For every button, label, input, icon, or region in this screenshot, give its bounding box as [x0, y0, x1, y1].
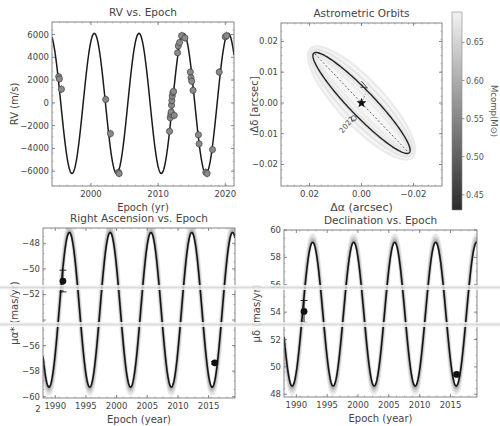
- colorbar-tick-label: 0.55: [466, 115, 484, 124]
- x-tick-label: −0.02: [400, 189, 426, 199]
- rv-data-point: [58, 86, 64, 92]
- rv-data-point: [187, 69, 193, 75]
- x-tick-label: 2020: [214, 189, 236, 199]
- plot-area: [284, 236, 477, 392]
- x-axis-label: Epoch (year): [349, 413, 413, 424]
- y-tick-label: 58: [270, 252, 281, 262]
- y-tick-label: 4000: [27, 52, 49, 62]
- colorbar: 0.450.500.550.600.65Mcomp(M⊙): [452, 12, 499, 210]
- chart-title: RV vs. Epoch: [109, 6, 177, 18]
- y-tick-label: 52: [270, 335, 281, 345]
- rv-model-curve: [52, 33, 234, 173]
- y-tick-label: −56: [22, 341, 40, 351]
- rv-data-point: [174, 50, 180, 56]
- plot-area: 2022: [308, 46, 415, 159]
- x-tick-label: 2000: [80, 189, 102, 199]
- y-tick-label: −4000: [20, 143, 49, 153]
- x-tick-label: 2000: [106, 401, 128, 411]
- x-tick-label: 0.02: [300, 189, 319, 199]
- y-tick-label: 0.01: [259, 67, 278, 77]
- plot-area: [52, 32, 234, 178]
- x-tick-label: 2000: [347, 400, 369, 410]
- stray-tick-label: 2: [35, 404, 40, 414]
- y-tick-label: 0.00: [259, 98, 278, 108]
- rv-data-point: [107, 131, 113, 137]
- figure-canvas: RV vs. EpochEpoch (yr)RV (m/s)2000201020…: [0, 0, 500, 426]
- plot-area: [43, 227, 235, 393]
- rv-data-point: [177, 39, 183, 45]
- rv-data-point: [204, 170, 210, 176]
- rv-data-point: [170, 88, 176, 94]
- colorbar-gradient: [452, 12, 462, 210]
- plot-astrometric: 2022Astrometric OrbitsΔα (arcsec)Δδ [arc…: [249, 7, 442, 214]
- y-axis-label: μα* (mas/yr): [9, 281, 20, 345]
- x-axis-label: Δα (arcsec): [330, 201, 392, 214]
- y-tick-label: −58: [22, 366, 40, 376]
- rv-data-point: [224, 33, 230, 39]
- rv-data-point: [166, 128, 172, 134]
- rv-data-point: [171, 112, 177, 118]
- x-tick-label: 2010: [409, 400, 431, 410]
- y-tick-label: −2000: [20, 121, 49, 131]
- plot-rv: RV vs. EpochEpoch (yr)RV (m/s)2000201020…: [9, 6, 236, 213]
- x-tick-label: 1995: [75, 401, 97, 411]
- y-tick-label: −6000: [20, 166, 49, 176]
- chart-title: Astrometric Orbits: [313, 7, 409, 19]
- x-tick-label: 2005: [136, 401, 158, 411]
- rv-data-point: [56, 76, 62, 82]
- plot-dec: Declination vs. EpochEpoch (year)μδ (mas…: [251, 214, 477, 424]
- rv-data-point: [103, 96, 109, 102]
- rv-data-point: [182, 35, 188, 41]
- data-point-gaia: [453, 371, 460, 378]
- y-tick-label: −52: [22, 289, 40, 299]
- rv-data-point: [209, 146, 215, 152]
- colorbar-label: Mcomp(M⊙): [489, 85, 499, 137]
- data-point-hipparcos: [60, 278, 67, 285]
- y-tick-label: −0.01: [252, 129, 278, 139]
- rv-data-point: [189, 78, 195, 84]
- x-tick-label: 2005: [378, 400, 400, 410]
- data-point-gaia: [211, 359, 218, 366]
- x-tick-label: 2015: [440, 400, 462, 410]
- y-axis-label: RV (m/s): [9, 83, 20, 126]
- y-tick-label: 48: [270, 389, 281, 399]
- y-tick-label: 54: [270, 307, 281, 317]
- rv-data-point: [190, 87, 196, 93]
- y-tick-label: 2000: [27, 75, 49, 85]
- y-tick-label: 60: [270, 225, 281, 235]
- rv-data-point: [196, 141, 202, 147]
- y-axis-label: μδ (mas/yr): [251, 284, 262, 342]
- colorbar-tick-label: 0.45: [466, 191, 484, 200]
- x-axis-label: Epoch (year): [107, 414, 171, 425]
- x-tick-label: 2010: [167, 401, 189, 411]
- chart-title: Declination vs. Epoch: [324, 214, 437, 226]
- chart-title: Right Ascension vs. Epoch: [70, 212, 208, 224]
- y-tick-label: −0.02: [252, 159, 278, 169]
- rv-data-point: [195, 132, 201, 138]
- colorbar-tick-label: 0.60: [466, 77, 484, 86]
- x-tick-label: 1990: [44, 401, 66, 411]
- scan-artifact-band: [0, 285, 500, 290]
- colorbar-tick-label: 0.50: [466, 153, 484, 162]
- rv-data-point: [116, 170, 122, 176]
- y-tick-label: −60: [22, 392, 40, 402]
- data-point-hipparcos: [301, 308, 308, 315]
- x-tick-label: 2015: [198, 401, 220, 411]
- y-tick-label: −50: [22, 264, 40, 274]
- y-tick-label: 6000: [27, 30, 49, 40]
- x-tick-label: 1990: [286, 400, 308, 410]
- rv-data-point: [216, 69, 222, 75]
- y-tick-label: −48: [22, 238, 40, 248]
- y-tick-label: 50: [270, 362, 281, 372]
- x-tick-label: 2010: [147, 189, 169, 199]
- colorbar-tick-label: 0.65: [466, 38, 484, 47]
- y-tick-label: 0: [44, 98, 49, 108]
- x-tick-label: 1995: [316, 400, 338, 410]
- y-tick-label: 0.02: [259, 36, 278, 46]
- x-tick-label: 0.00: [352, 189, 371, 199]
- scan-artifact-band: [0, 322, 500, 327]
- plot-ra: Right Ascension vs. EpochEpoch (year)μα*…: [9, 212, 235, 425]
